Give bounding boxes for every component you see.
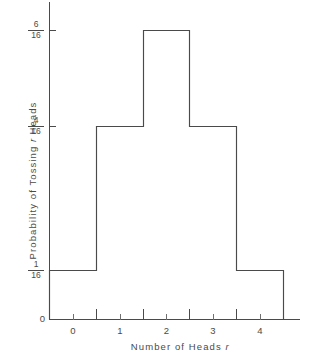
histogram-figure: 6 16 4 16 1 16 0 0 1 2 3 4 Number of Hea… [0,0,322,360]
histogram-step-outline [50,31,284,320]
x-axis-title-text: Number of Heads [131,341,226,352]
x-axis-title: Number of Heads r [60,341,300,352]
y-axis-title-variable: r [27,138,38,142]
x-tick-label-2: 2 [157,325,177,336]
y-tick-label-6-16-numerator: 6 [26,20,46,29]
y-axis-title-text-prefix: Probability of Tossing [27,142,38,260]
y-tick-label-6-16: 6 16 [26,20,46,40]
x-axis-title-variable: r [226,341,230,352]
x-tick-label-1: 1 [110,325,130,336]
y-tick-label-6-16-denominator: 16 [26,31,46,40]
y-axis-origin-label: 0 [31,314,45,324]
y-axis-title-text-suffix: Heads [27,102,38,139]
x-tick-label-4: 4 [250,325,270,336]
plot-canvas [0,0,322,360]
x-tick-label-3: 3 [203,325,223,336]
x-tick-label-0: 0 [63,325,83,336]
y-axis-title: Probability of Tossing r Heads [27,66,38,296]
